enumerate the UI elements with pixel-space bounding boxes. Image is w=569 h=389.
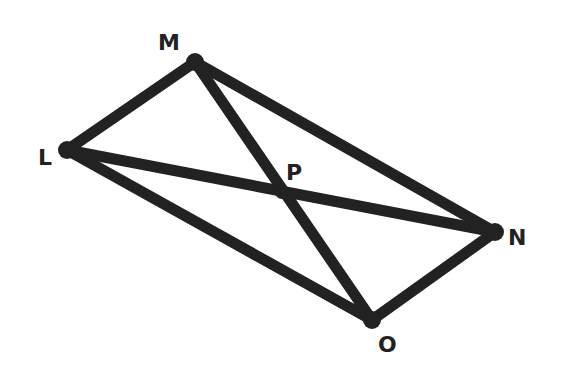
vertex-P — [275, 185, 289, 199]
label-N: N — [508, 225, 526, 250]
side-NO — [372, 232, 495, 320]
vertex-L — [58, 141, 76, 159]
vertices — [58, 53, 504, 329]
parallelogram-diagram: M L P N O — [0, 0, 569, 389]
label-P: P — [286, 160, 302, 185]
label-O: O — [378, 332, 397, 357]
vertex-O — [363, 311, 381, 329]
side-LM — [67, 62, 195, 150]
vertex-M — [186, 53, 204, 71]
vertex-N — [486, 223, 504, 241]
label-L: L — [38, 145, 52, 170]
label-M: M — [158, 30, 180, 55]
